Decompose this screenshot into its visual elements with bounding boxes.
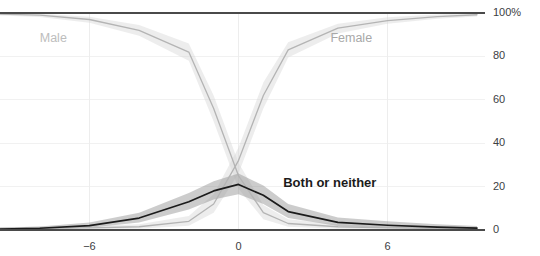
series-annotation-both-or-neither: Both or neither — [283, 175, 376, 190]
series-annotation-female: Female — [330, 31, 372, 45]
series-annotations: MaleFemaleBoth or neither — [40, 31, 377, 189]
y-axis-tick-label: 0 — [493, 223, 499, 235]
y-axis-tick-label: 20 — [493, 180, 505, 192]
x-axis-tick-labels: −606 — [83, 240, 390, 252]
y-axis-tick-label: 100% — [493, 6, 521, 18]
cropped-header-text — [130, 0, 133, 7]
line-chart: 020406080100% −606 MaleFemaleBoth or nei… — [0, 0, 540, 256]
series-annotation-male: Male — [40, 31, 67, 45]
cropped-header-strip — [0, 0, 540, 7]
x-axis-tick-label: 6 — [385, 240, 391, 252]
y-axis-tick-labels: 020406080100% — [493, 6, 521, 235]
x-axis-tick-label: −6 — [83, 240, 96, 252]
axis-lines — [0, 13, 485, 230]
chart-container: 020406080100% −606 MaleFemaleBoth or nei… — [0, 0, 540, 256]
gridlines — [0, 13, 485, 230]
x-axis-tick-label: 0 — [235, 240, 241, 252]
y-axis-tick-label: 40 — [493, 136, 505, 148]
y-axis-tick-label: 80 — [493, 49, 505, 61]
y-axis-tick-label: 60 — [493, 93, 505, 105]
